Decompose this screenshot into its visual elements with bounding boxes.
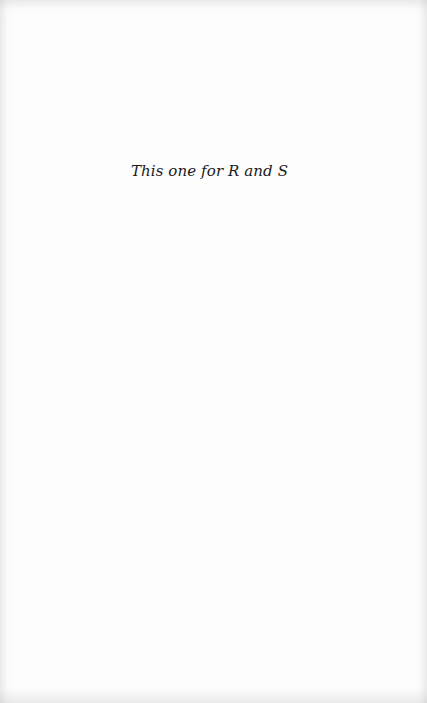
- scan-edge-shading: [419, 0, 427, 703]
- scan-edge-shading: [0, 0, 8, 703]
- scan-edge-shading: [0, 0, 427, 10]
- scan-edge-shading: [0, 687, 427, 703]
- book-page: This one for R and S: [0, 0, 427, 703]
- dedication-text: This one for R and S: [0, 160, 419, 182]
